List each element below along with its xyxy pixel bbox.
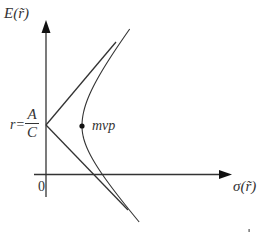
origin-label: 0 — [38, 180, 45, 194]
mean-variance-diagram: E(r̃) σ(r̃) 0 r= A C mvp — [0, 0, 268, 234]
lower-asymptote — [46, 125, 128, 210]
x-axis-arrow-icon — [219, 170, 232, 179]
upper-asymptote — [46, 42, 116, 125]
y-axis-label: E(r̃) — [4, 6, 29, 21]
fraction-numerator: A — [25, 107, 39, 122]
stray-mark — [249, 229, 250, 232]
y-axis-arrow-icon — [42, 20, 51, 33]
intercept-fraction: A C — [25, 107, 39, 140]
fraction-denominator: C — [25, 125, 39, 140]
diagram-canvas — [0, 0, 268, 234]
x-axis-label: σ(r̃) — [233, 179, 256, 194]
mvp-label: mvp — [92, 119, 115, 133]
mvp-point — [79, 123, 84, 128]
intercept-prefix: r= — [10, 118, 25, 132]
